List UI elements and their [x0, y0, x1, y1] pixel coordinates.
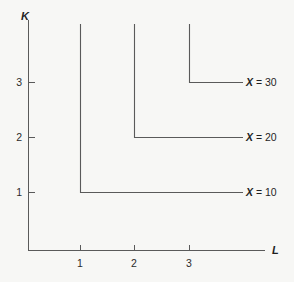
isoquant-label-x10-var: X [246, 186, 253, 198]
isoquant-curve-x30 [190, 24, 223, 83]
y-tick-label-2: 2 [8, 132, 22, 143]
isoquant-label-x30-var: X [246, 76, 253, 88]
isoquant-curve-x10 [81, 24, 223, 193]
y-tick-label-3: 3 [8, 77, 22, 88]
y-tick-label-1: 1 [8, 187, 22, 198]
isoquant-label-x20: X = 20 [246, 132, 277, 143]
x-tick-label-2: 2 [127, 258, 141, 269]
isoquant-label-x30-value: = 30 [253, 76, 277, 88]
isoquant-label-x30: X = 30 [246, 77, 277, 88]
isoquant-label-x20-var: X [246, 131, 253, 143]
isoquant-figure: K L 3 2 1 1 2 3 X = 10 X = 20 X = 30 [0, 0, 294, 282]
y-axis-title: K [21, 11, 29, 22]
isoquant-label-x10: X = 10 [246, 187, 277, 198]
x-axis-title: L [272, 245, 279, 256]
isoquant-curve-x20 [135, 24, 223, 138]
isoquant-label-x10-value: = 10 [253, 186, 277, 198]
x-tick-label-3: 3 [182, 258, 196, 269]
x-tick-label-1: 1 [73, 258, 87, 269]
isoquant-label-x20-value: = 20 [253, 131, 277, 143]
